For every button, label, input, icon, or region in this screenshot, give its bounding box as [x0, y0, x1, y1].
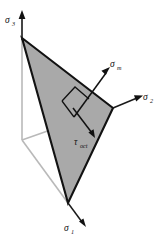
sigma-1-axis-line — [68, 203, 82, 222]
sigma-2-axis-line — [113, 98, 137, 108]
sigma-1-label-subscript: 1 — [71, 228, 74, 235]
sigma-2-label-symbol: σ — [143, 92, 148, 102]
octahedral-plane-figure: σ 3 σ 2 σ 1 σ m τ oct — [0, 0, 163, 240]
sigma-2-arrow-head — [134, 95, 143, 101]
octahedral-plane-triangle — [22, 38, 113, 203]
sigma-m-label-subscript: m — [117, 64, 122, 71]
tau-oct-label-subscript: oct — [80, 142, 88, 149]
sigma-m-label-symbol: σ — [110, 59, 115, 69]
figure-canvas: σ 3 σ 2 σ 1 σ m τ oct — [0, 0, 163, 240]
sigma-3-arrow-head — [19, 10, 26, 19]
sigma-1-label-symbol: σ — [64, 223, 69, 233]
sigma-3-label-symbol: σ — [5, 15, 10, 25]
sigma-m-arrow-head — [101, 67, 110, 75]
sigma-3-label-subscript: 3 — [11, 20, 15, 27]
tau-oct-label-symbol: τ — [74, 137, 78, 147]
sigma-2-label-subscript: 2 — [150, 97, 153, 104]
